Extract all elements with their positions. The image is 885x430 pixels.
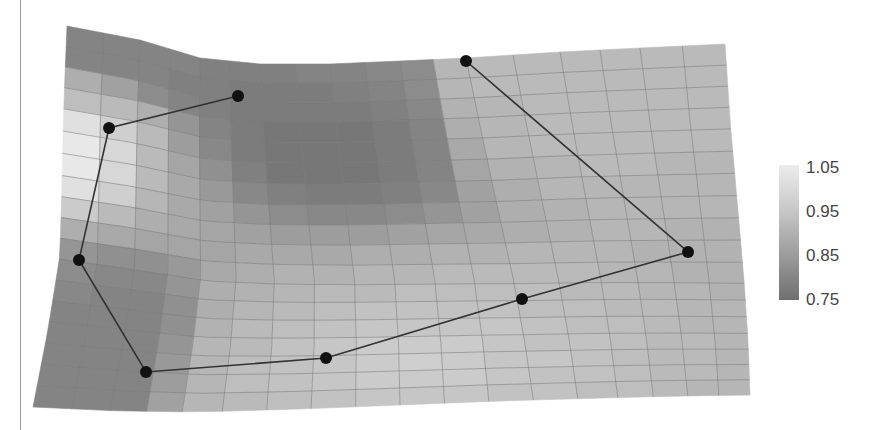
mesh-cell — [234, 282, 274, 302]
mesh-cell — [551, 241, 598, 263]
mesh-cell — [419, 181, 459, 203]
mesh-cell — [571, 350, 614, 367]
mesh-cell — [704, 240, 742, 262]
mesh-cell — [646, 88, 689, 110]
mesh-cell — [314, 320, 356, 338]
mesh-cell — [702, 218, 741, 240]
mesh-cell — [200, 137, 233, 161]
mesh-cell — [555, 262, 601, 283]
mesh-cell — [150, 372, 188, 393]
mesh-cell — [609, 110, 651, 132]
mesh-cell — [271, 338, 314, 356]
polygon-marker-point — [140, 366, 152, 378]
mesh-heatmap-plot — [0, 0, 885, 430]
mesh-cell — [406, 99, 444, 120]
mesh-cell — [222, 392, 268, 411]
mesh-cell — [409, 119, 447, 140]
mesh-cell — [439, 318, 482, 336]
mesh-cell — [685, 365, 718, 381]
mesh-cell — [272, 245, 313, 265]
mesh-cell — [538, 177, 586, 200]
mesh-cell — [655, 152, 697, 175]
mesh-cell — [399, 370, 443, 388]
mesh-cell — [483, 136, 533, 159]
mesh-cell — [415, 160, 455, 182]
mesh-cell — [225, 374, 270, 393]
mesh-cell — [236, 263, 275, 284]
mesh-cell — [330, 63, 368, 84]
mesh-cell — [80, 346, 122, 370]
mesh-cell — [620, 175, 661, 198]
mesh-cell — [301, 142, 340, 163]
mesh-cell — [467, 243, 510, 264]
mesh-cell — [341, 162, 381, 184]
mesh-cell — [613, 131, 655, 154]
mesh-cell — [533, 155, 582, 178]
mesh-cell — [600, 48, 643, 71]
mesh-cell — [234, 202, 271, 224]
mesh-cell — [574, 133, 616, 156]
mesh-cell — [440, 98, 478, 119]
mesh-cell — [641, 299, 679, 316]
mesh-cell — [648, 349, 685, 365]
mesh-cell — [272, 320, 314, 338]
polygon-marker-point — [73, 254, 85, 266]
mesh-cell — [157, 333, 194, 355]
mesh-cell — [398, 336, 441, 354]
mesh-cell — [332, 82, 370, 103]
mesh-cell — [689, 107, 731, 130]
mesh-cell — [368, 81, 406, 102]
mesh-cell — [185, 374, 227, 393]
mesh-cell — [234, 223, 272, 245]
mesh-cell — [681, 333, 716, 349]
mesh-cell — [356, 354, 399, 372]
mesh-cell — [200, 97, 232, 119]
mesh-cell — [200, 117, 232, 140]
mesh-cell — [33, 386, 76, 409]
mesh-cell — [624, 197, 665, 219]
mesh-cell — [147, 392, 186, 412]
mesh-cell — [651, 130, 693, 153]
mesh-cell — [262, 103, 300, 123]
mesh-cell — [638, 283, 676, 300]
mesh-cell — [41, 343, 83, 367]
mesh-cell — [196, 299, 234, 319]
colorbar-tick-min: 0.75 — [806, 291, 839, 308]
mesh-cell — [459, 202, 501, 223]
mesh-cell — [400, 387, 445, 406]
mesh-cell — [309, 225, 350, 245]
mesh-cell — [520, 317, 568, 335]
mesh-cell — [661, 196, 701, 218]
mesh-cell — [307, 205, 348, 225]
mesh-cell — [267, 184, 307, 205]
mesh-cell — [477, 301, 520, 318]
mesh-cell — [510, 263, 559, 284]
mesh-cell — [231, 319, 273, 338]
mesh-cell — [198, 280, 236, 301]
mesh-cell — [194, 318, 233, 338]
mesh-cell — [356, 388, 400, 407]
mesh-cell — [400, 60, 437, 81]
mesh-cell — [562, 300, 607, 318]
mesh-cell — [683, 44, 727, 67]
mesh-cell — [559, 283, 604, 300]
mesh-cell — [297, 83, 335, 102]
mesh-cell — [375, 140, 415, 162]
mesh-cell — [372, 120, 412, 141]
mesh-cell — [412, 139, 451, 161]
mesh-cell — [676, 300, 712, 317]
mesh-cell — [474, 95, 525, 117]
mesh-cell — [560, 50, 603, 72]
mesh-cell — [261, 83, 298, 102]
mesh-cell — [707, 262, 744, 283]
mesh-cell — [313, 265, 355, 285]
mesh-cell — [303, 163, 343, 184]
mesh-cell — [231, 100, 264, 122]
mesh-cell — [273, 264, 314, 284]
mesh-cell — [200, 158, 233, 182]
mesh-cell — [435, 284, 477, 302]
mesh-cell — [616, 153, 658, 176]
mesh-cell — [718, 380, 750, 396]
mesh-cell — [604, 299, 643, 316]
mesh-cell — [687, 86, 730, 109]
